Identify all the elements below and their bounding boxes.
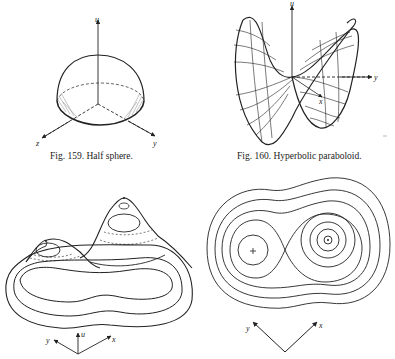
contour-map-figure: y x (207, 178, 390, 352)
x-axis-label: x (111, 335, 116, 344)
right-peak-contour (108, 214, 140, 232)
figure-canvas: u z y (0, 0, 395, 359)
contour-1 (14, 258, 182, 316)
shading-hatch (58, 93, 143, 119)
y-axis (54, 340, 78, 354)
left-peak-contour (36, 243, 60, 257)
base-ellipse-back (57, 83, 144, 101)
figure-160-caption: Fig. 160. Hyperbolic paraboloid. (237, 151, 362, 161)
right-peak-hidden (100, 238, 158, 244)
right-peak-contour-lower (90, 255, 165, 266)
y-axis-label: y (45, 336, 50, 345)
x-axis-label: x (318, 321, 323, 330)
contour-separatrix (230, 214, 362, 282)
two-peak-surface-figure: y u x (6, 197, 192, 354)
right-peak-point (123, 197, 125, 199)
u-axis-label: u (95, 15, 99, 24)
contour-2 (20, 267, 172, 302)
surface-grid (234, 20, 354, 142)
x-axis-label: x (318, 97, 323, 106)
right-peak-hidden-2 (104, 230, 152, 235)
dome-outline (57, 55, 144, 101)
surface-ridge-right (292, 19, 356, 77)
left-peak-point (45, 240, 47, 242)
y-axis-label: y (245, 324, 250, 333)
hyperbolic-paraboloid-figure: u y x (234, 0, 387, 145)
y-axis-label: y (152, 139, 157, 148)
left-max-marker (250, 248, 256, 254)
y-axis (253, 322, 285, 352)
right-peak-outline (80, 198, 192, 268)
u-axis-label: u (81, 330, 85, 339)
right-max-point (327, 239, 329, 241)
right-peak-top-contour (119, 203, 129, 209)
y-axis (128, 121, 155, 136)
contour-outer-3 (222, 201, 370, 288)
figure-159-caption: Fig. 159. Half sphere. (50, 151, 133, 161)
base-outline (6, 245, 192, 329)
z-axis (42, 121, 70, 138)
half-sphere-figure: u z y (35, 15, 157, 148)
y-axis-label: y (373, 73, 378, 82)
x-axis (285, 322, 317, 352)
z-axis-label: z (35, 139, 40, 148)
u-axis-label: u (290, 0, 294, 8)
